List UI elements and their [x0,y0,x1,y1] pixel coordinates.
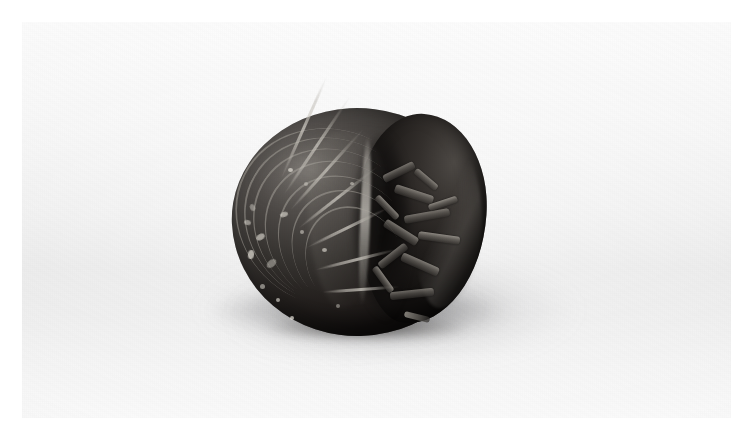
page-canvas [0,0,753,441]
photograph [22,22,731,418]
film-grain-overlay [22,22,731,418]
